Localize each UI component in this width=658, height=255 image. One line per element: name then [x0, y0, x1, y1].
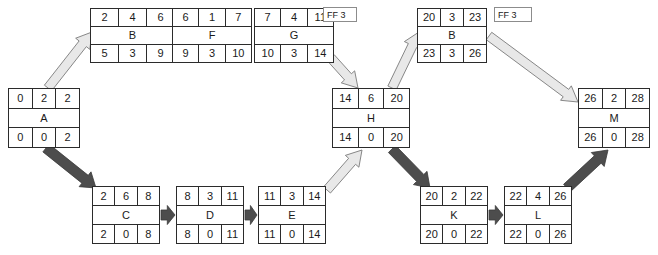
arrow-c-to-d [161, 206, 175, 225]
node-label: H [333, 109, 409, 128]
cell-total-float: 0 [32, 128, 57, 147]
node-bottom-row: 11014 [259, 224, 325, 243]
node-top-row: 20323 [418, 9, 486, 27]
node-top-row: 26228 [579, 89, 649, 109]
activity-node-b1[interactable]: 246B539 [90, 8, 175, 63]
node-top-row: 7411 [255, 9, 333, 27]
arrow-a-to-c [43, 144, 96, 188]
cell-late-finish: 26 [464, 45, 486, 62]
arrow-e-to-h [324, 150, 362, 193]
cell-late-finish: 9 [147, 45, 174, 62]
cell-late-start: 9 [173, 45, 198, 62]
activity-node-a[interactable]: 022A002 [8, 88, 80, 148]
activity-node-f[interactable]: 617F9310 [172, 8, 252, 63]
activity-node-b2[interactable]: 20323B23326 [417, 8, 487, 63]
cell-late-finish: 10 [226, 45, 251, 62]
cell-late-finish: 26 [550, 225, 571, 243]
cell-early-finish: 23 [464, 9, 486, 26]
cell-duration: 6 [358, 89, 385, 108]
node-bottom-row: 20022 [421, 224, 487, 243]
free-float-label: FF 3 [323, 7, 357, 22]
cell-late-start: 23 [418, 45, 440, 62]
cell-duration: 6 [114, 187, 137, 205]
node-top-row: 8311 [177, 187, 243, 206]
node-bottom-row: 14020 [333, 127, 409, 147]
node-label: B [91, 27, 174, 44]
node-bottom-row: 26028 [579, 127, 649, 147]
cell-duration: 2 [442, 187, 465, 205]
activity-node-d[interactable]: 8311D8011 [176, 186, 244, 244]
node-label: B [418, 27, 486, 44]
activity-node-e[interactable]: 11314E11014 [258, 186, 326, 244]
cell-late-start: 2 [93, 225, 114, 243]
cell-total-float: 0 [602, 128, 627, 147]
arrow-h-to-k [388, 146, 430, 188]
cell-early-start: 22 [505, 187, 526, 205]
arrow-b2-to-m [486, 32, 578, 102]
cell-early-finish: 14 [304, 187, 325, 205]
node-label: D [177, 206, 243, 224]
cell-late-finish: 22 [466, 225, 487, 243]
node-label: G [255, 27, 333, 44]
cell-late-finish: 11 [222, 225, 243, 243]
node-bottom-row: 539 [91, 44, 174, 62]
node-top-row: 20222 [421, 187, 487, 206]
activity-node-h[interactable]: 14620H14020 [332, 88, 410, 148]
node-bottom-row: 002 [9, 127, 79, 147]
node-label: A [9, 109, 79, 128]
cell-late-finish: 2 [56, 128, 79, 147]
activity-node-c[interactable]: 268C208 [92, 186, 160, 244]
activity-node-g[interactable]: 7411G10314 [254, 8, 334, 63]
cell-total-float: 3 [118, 45, 147, 62]
node-bottom-row: 9310 [173, 44, 251, 62]
cell-late-start: 26 [579, 128, 602, 147]
cell-late-start: 10 [255, 45, 280, 62]
node-label: F [173, 27, 251, 44]
cell-early-finish: 8 [138, 187, 159, 205]
cell-late-start: 11 [259, 225, 280, 243]
activity-node-m[interactable]: 26228M26028 [578, 88, 650, 148]
cell-duration: 2 [602, 89, 627, 108]
cell-early-start: 8 [177, 187, 198, 205]
node-bottom-row: 10314 [255, 44, 333, 62]
node-top-row: 617 [173, 9, 251, 27]
cell-duration: 3 [440, 9, 464, 26]
cell-late-start: 20 [421, 225, 442, 243]
cell-duration: 4 [526, 187, 549, 205]
arrow-h-to-b2 [388, 32, 421, 90]
cell-total-float: 3 [280, 45, 307, 62]
node-top-row: 22426 [505, 187, 571, 206]
cell-early-start: 2 [93, 187, 114, 205]
arrow-d-to-e [245, 206, 257, 225]
node-bottom-row: 8011 [177, 224, 243, 243]
cell-late-start: 0 [9, 128, 32, 147]
cell-late-start: 5 [91, 45, 118, 62]
cell-late-finish: 8 [138, 225, 159, 243]
cell-late-finish: 28 [626, 128, 649, 147]
arrow-k-to-l [489, 206, 503, 225]
node-top-row: 11314 [259, 187, 325, 206]
node-bottom-row: 208 [93, 224, 159, 243]
activity-node-k[interactable]: 20222K20022 [420, 186, 488, 244]
cell-early-finish: 7 [226, 9, 251, 26]
cell-duration: 4 [118, 9, 147, 26]
cell-late-finish: 14 [304, 225, 325, 243]
cell-early-start: 20 [418, 9, 440, 26]
node-top-row: 246 [91, 9, 174, 27]
cell-early-start: 14 [333, 89, 358, 108]
cell-total-float: 3 [440, 45, 464, 62]
cell-early-start: 0 [9, 89, 32, 108]
cell-duration: 1 [198, 9, 225, 26]
cell-total-float: 0 [358, 128, 385, 147]
cell-early-start: 6 [173, 9, 198, 26]
cell-late-finish: 20 [384, 128, 409, 147]
cell-early-finish: 2 [56, 89, 79, 108]
cell-early-start: 2 [91, 9, 118, 26]
activity-node-l[interactable]: 22426L22026 [504, 186, 572, 244]
cell-duration: 2 [32, 89, 57, 108]
cell-early-finish: 28 [626, 89, 649, 108]
cell-early-start: 7 [255, 9, 280, 26]
node-top-row: 022 [9, 89, 79, 109]
cell-duration: 3 [280, 187, 303, 205]
cell-late-finish: 14 [308, 45, 333, 62]
